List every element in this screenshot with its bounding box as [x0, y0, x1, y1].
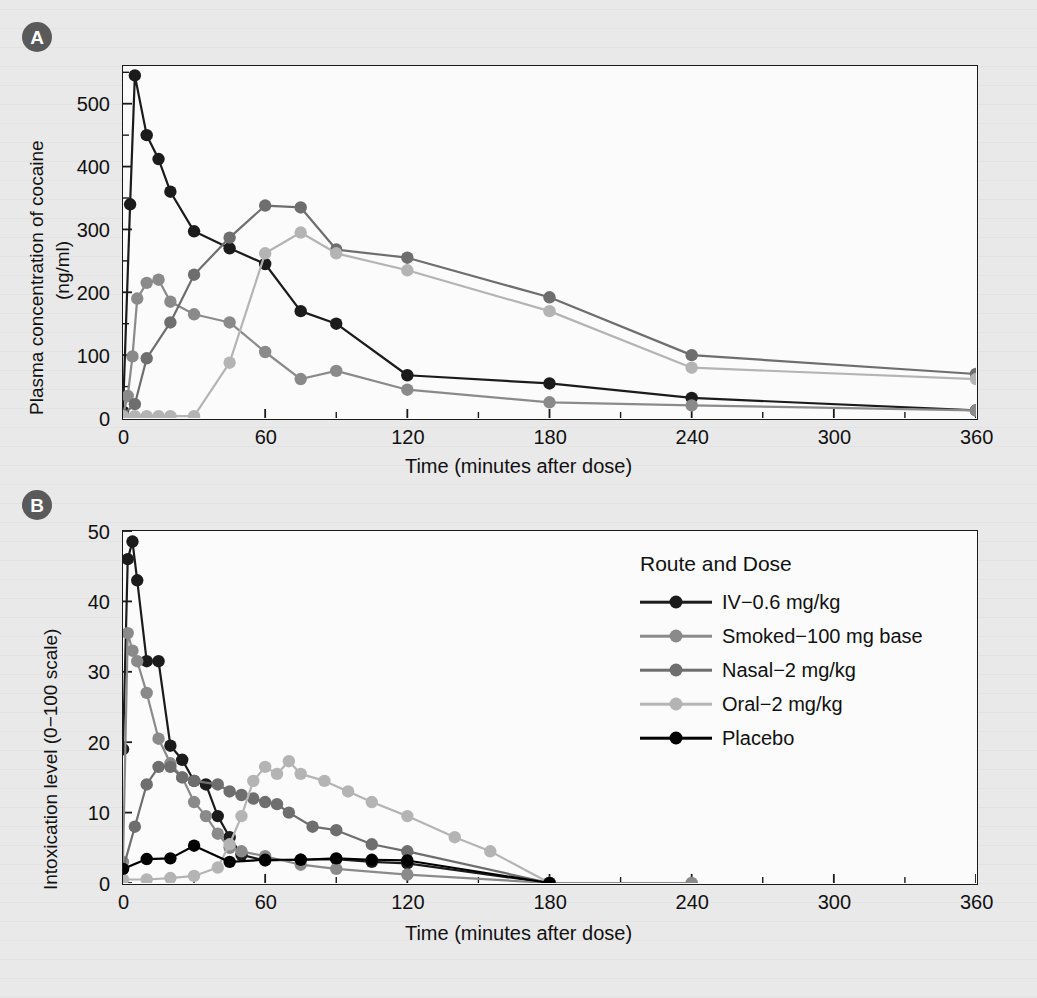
data-point — [223, 316, 235, 328]
legend-marker-icon — [670, 732, 683, 745]
data-point — [152, 732, 164, 744]
data-point — [188, 775, 200, 787]
legend-label: Nasal−2 mg/kg — [722, 659, 856, 682]
data-point — [164, 740, 176, 752]
data-point — [685, 349, 697, 361]
data-point — [366, 854, 378, 866]
legend-label: Placebo — [722, 727, 794, 750]
data-point — [176, 771, 188, 783]
panel-a-plot-area — [122, 65, 978, 420]
data-point — [223, 242, 235, 254]
data-point — [235, 845, 247, 857]
x-tick-label: 300 — [818, 426, 851, 449]
data-point — [152, 655, 164, 667]
data-point — [152, 761, 164, 773]
legend-swatch — [640, 662, 712, 678]
data-point — [259, 761, 271, 773]
x-tick-label: 0 — [118, 891, 129, 914]
chart-legend: Route and Dose IV−0.6 mg/kgSmoked−100 mg… — [640, 552, 923, 755]
data-point — [129, 398, 141, 410]
x-tick-label: 360 — [960, 891, 993, 914]
x-tick-label: 0 — [118, 426, 129, 449]
data-point — [164, 186, 176, 198]
panel-a: A Plasma concentration of cocaine (ng/ml… — [0, 0, 1037, 500]
panel-a-y-axis-title: Plasma concentration of cocaine — [26, 140, 48, 415]
data-point — [188, 796, 200, 808]
data-point — [188, 268, 200, 280]
panel-b: B Intoxication level (0−100 scale) 01020… — [0, 490, 1037, 998]
data-point — [259, 346, 271, 358]
data-point — [330, 318, 342, 330]
data-point — [131, 655, 143, 667]
panel-a-badge: A — [22, 22, 52, 52]
y-tick-label: 200 — [40, 281, 110, 304]
data-point — [164, 761, 176, 773]
data-point — [164, 410, 176, 418]
panel-a-x-axis-title-text: Time (minutes after dose) — [405, 455, 632, 477]
x-tick-label: 120 — [391, 891, 424, 914]
data-point — [401, 810, 413, 822]
legend-item: Nasal−2 mg/kg — [640, 653, 923, 687]
panel-b-badge: B — [22, 490, 52, 520]
legend-marker-icon — [670, 630, 683, 643]
data-point — [543, 877, 555, 883]
x-tick-label: 300 — [818, 891, 851, 914]
data-point — [318, 775, 330, 787]
y-tick-label: 20 — [40, 731, 110, 754]
legend-marker-icon — [670, 664, 683, 677]
data-point — [123, 627, 134, 639]
data-point — [235, 810, 247, 822]
data-point — [330, 852, 342, 864]
data-point — [223, 856, 235, 868]
data-point — [140, 410, 152, 418]
data-point — [140, 873, 152, 883]
data-point — [131, 292, 143, 304]
data-point — [342, 785, 354, 797]
data-point — [188, 225, 200, 237]
panel-a-x-axis-title: Time (minutes after dose) — [0, 455, 1037, 478]
data-point — [271, 768, 283, 780]
data-point — [164, 852, 176, 864]
legend-items: IV−0.6 mg/kgSmoked−100 mg baseNasal−2 mg… — [640, 585, 923, 755]
x-tick-label: 240 — [676, 426, 709, 449]
data-point — [259, 247, 271, 259]
data-point — [543, 396, 555, 408]
legend-marker-icon — [670, 698, 683, 711]
data-point — [200, 810, 212, 822]
data-point — [200, 778, 212, 790]
legend-swatch — [640, 696, 712, 712]
data-point — [176, 754, 188, 766]
data-point — [223, 838, 235, 850]
data-point — [140, 352, 152, 364]
data-point — [259, 796, 271, 808]
data-point — [449, 831, 461, 843]
data-point — [123, 553, 134, 565]
data-point — [295, 854, 307, 866]
y-tick-label: 0 — [40, 407, 110, 430]
data-point — [223, 231, 235, 243]
data-point — [164, 296, 176, 308]
data-point — [295, 305, 307, 317]
y-tick-label: 300 — [40, 219, 110, 242]
data-point — [283, 755, 295, 767]
data-point — [401, 868, 413, 880]
data-point — [271, 798, 283, 810]
data-point — [126, 535, 138, 547]
y-tick-label: 10 — [40, 802, 110, 825]
data-point — [164, 316, 176, 328]
data-point — [235, 789, 247, 801]
data-point — [295, 768, 307, 780]
data-point — [212, 861, 224, 873]
x-tick-label: 180 — [533, 426, 566, 449]
data-point — [401, 252, 413, 264]
panel-a-y-axis-title-line1: Plasma concentration of cocaine — [26, 140, 47, 415]
data-point — [366, 838, 378, 850]
data-point — [212, 810, 224, 822]
data-point — [124, 198, 136, 210]
legend-item: Smoked−100 mg base — [640, 619, 923, 653]
legend-label: Smoked−100 mg base — [722, 625, 923, 648]
data-point — [164, 872, 176, 883]
data-point — [295, 201, 307, 213]
data-point — [152, 153, 164, 165]
data-point — [259, 854, 271, 866]
